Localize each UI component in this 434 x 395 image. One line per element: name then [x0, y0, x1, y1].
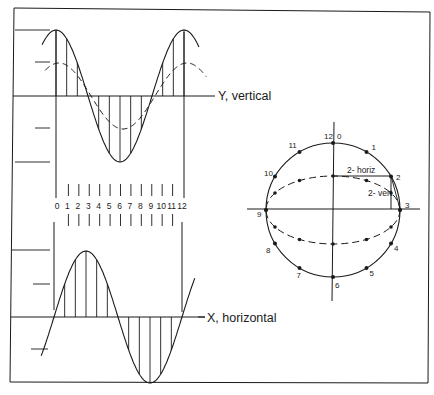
- timeline-tick-label: 5: [107, 201, 112, 211]
- y-axis-label: Y, vertical: [218, 89, 271, 103]
- x-horizontal-wave-panel: X, horizontal: [11, 222, 276, 383]
- clock-point-dot: [389, 242, 393, 246]
- timeline-tick-label: 11: [167, 201, 176, 211]
- phase-circle-panel: 2- horiz 2- vert 1201234567891011: [247, 122, 420, 301]
- clock-point-label: 11: [289, 141, 298, 150]
- timeline-tick-label: 10: [156, 201, 166, 211]
- clock-point-dot: [273, 242, 277, 246]
- timeline-tick-label: 4: [96, 201, 101, 211]
- clock-point-label: 12: [324, 132, 333, 141]
- horiz-component-label: 2- horiz: [347, 165, 375, 175]
- timeline-tick-label: 2: [75, 201, 80, 211]
- timeline-scale: 0123456789101112: [55, 184, 187, 226]
- clock-point-dot: [298, 266, 302, 270]
- ellipse-point-dot: [398, 208, 402, 212]
- clock-point-label: 5: [370, 269, 375, 278]
- clock-point-dot: [298, 150, 302, 154]
- timeline-tick-label: 7: [128, 201, 133, 211]
- clock-point-label: 1: [372, 143, 377, 152]
- ellipse-point-dot: [389, 225, 393, 229]
- clock-point-dot: [365, 150, 369, 154]
- clock-point-label: 10: [264, 169, 273, 178]
- clock-point-dot: [273, 175, 277, 179]
- ellipse-point-dot: [273, 225, 277, 229]
- ellipse-point-dot: [298, 238, 302, 242]
- clock-point-label: 7: [297, 271, 302, 280]
- clock-point-dot: [365, 266, 369, 270]
- vert-component-label: 2- vert: [368, 188, 393, 198]
- clock-point-label: 9: [257, 210, 262, 219]
- wave-projection-diagram: Y, vertical 0123456789101112 X, horizont…: [0, 0, 434, 395]
- clock-point-label: 3: [405, 201, 410, 210]
- ellipse-point-dot: [264, 208, 268, 212]
- ellipse-point-dot: [331, 174, 335, 178]
- ellipse-point-dot: [365, 179, 369, 183]
- circle-vertical-axis: [332, 122, 334, 301]
- y-vertical-wave-panel: Y, vertical: [13, 30, 271, 198]
- timeline-tick-label: 8: [138, 201, 143, 211]
- ellipse-point-dot: [273, 191, 277, 195]
- timeline-tick-label: 1: [65, 201, 70, 211]
- outer-frame: [10, 8, 430, 383]
- clock-point-dot: [331, 141, 335, 145]
- timeline-tick-label: 6: [117, 201, 122, 211]
- ellipse-point-dot: [389, 191, 393, 195]
- clock-point-label: 8: [266, 246, 271, 255]
- clock-point-dot: [331, 275, 335, 279]
- ellipse-point-dot: [331, 242, 335, 246]
- ellipse-point-dot: [365, 238, 369, 242]
- timeline-tick-label: 0: [55, 201, 60, 211]
- clock-point-label: 0: [337, 132, 342, 141]
- clock-point-label: 2: [396, 173, 401, 182]
- clock-point-label: 6: [335, 281, 340, 290]
- timeline-tick-label: 9: [148, 201, 153, 211]
- timeline-tick-label: 3: [86, 201, 91, 211]
- x-axis-label: X, horizontal: [207, 311, 276, 325]
- clock-point-dot: [389, 175, 393, 179]
- timeline-tick-label: 12: [177, 201, 187, 211]
- clock-point-label: 4: [394, 244, 399, 253]
- ellipse-point-dot: [298, 179, 302, 183]
